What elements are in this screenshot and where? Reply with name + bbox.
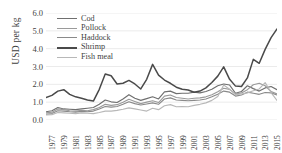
x-tick-label: 1991 (132, 135, 139, 150)
legend-swatch-icon (57, 18, 77, 19)
x-tick-label: 1985 (97, 135, 104, 150)
x-tick-label: 1993 (144, 135, 151, 150)
x-tick-label: 2011 (251, 135, 258, 150)
line-chart: USD per kg 0.01.02.03.04.05.06.0 1977197… (0, 0, 282, 153)
x-tick-label: 2015 (274, 135, 281, 150)
y-tick-label: 0.0 (17, 116, 43, 125)
x-tick-label: 1979 (61, 135, 68, 150)
x-tick-label: 1997 (168, 135, 175, 150)
y-tick-label: 1.0 (17, 98, 43, 107)
legend-item-pollock[interactable]: Pollock (57, 24, 113, 34)
legend-swatch-icon (57, 28, 77, 29)
legend-label: Haddock (81, 34, 111, 42)
x-tick-label: 2007 (227, 135, 234, 150)
x-tick-label: 2005 (215, 135, 222, 150)
legend-label: Pollock (81, 24, 106, 32)
x-tick-label: 1981 (73, 135, 80, 150)
legend-label: Shrimp (81, 43, 105, 51)
x-tick-label: 2003 (203, 135, 210, 150)
y-tick-label: 2.0 (17, 80, 43, 89)
legend-item-haddock[interactable]: Haddock (57, 33, 113, 43)
legend-label: Fish meal (81, 53, 113, 61)
y-tick-label: 5.0 (17, 27, 43, 36)
y-tick-label: 6.0 (17, 9, 43, 18)
x-tick-label: 1983 (85, 135, 92, 150)
x-tick-label: 2001 (191, 135, 198, 150)
x-tick-label: 2009 (239, 135, 246, 150)
legend-swatch-icon (57, 37, 77, 38)
y-tick-label: 3.0 (17, 63, 43, 72)
legend-label: Cod (81, 15, 95, 23)
y-tick-label: 4.0 (17, 45, 43, 54)
legend-swatch-icon (57, 57, 77, 58)
legend-swatch-icon (57, 47, 77, 49)
y-axis-ticks: 0.01.02.03.04.05.06.0 (17, 0, 43, 153)
legend-item-cod[interactable]: Cod (57, 14, 113, 24)
x-axis-ticks: 1977197919811983198519871989199119931995… (46, 120, 277, 153)
x-tick-label: 1987 (108, 135, 115, 150)
x-tick-label: 1977 (49, 135, 56, 150)
x-tick-label: 1999 (180, 135, 187, 150)
legend: CodPollockHaddockShrimpFish meal (57, 14, 113, 62)
legend-item-shrimp[interactable]: Shrimp (57, 43, 113, 53)
x-tick-label: 1995 (156, 135, 163, 150)
x-tick-label: 1989 (120, 135, 127, 150)
legend-item-fish-meal[interactable]: Fish meal (57, 52, 113, 62)
x-tick-label: 2013 (262, 135, 269, 150)
